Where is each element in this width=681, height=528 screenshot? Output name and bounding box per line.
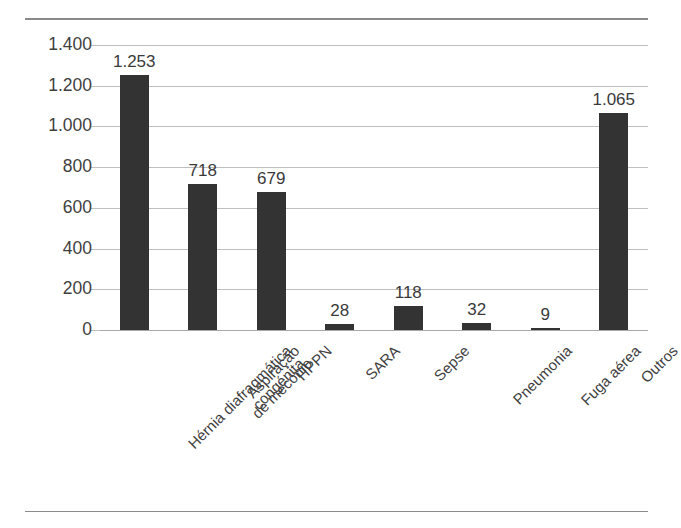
y-axis-tick-label: 800: [2, 158, 92, 176]
x-axis-category-label: Pneumonia: [509, 342, 575, 408]
bar: [531, 328, 560, 330]
bar: [394, 306, 423, 330]
y-axis-tick-label: 0: [2, 321, 92, 339]
bar-value-label: 9: [495, 306, 595, 323]
bar: [599, 113, 628, 330]
y-axis-tick-label: 1.000: [2, 117, 92, 135]
x-axis-category-label: Sepse: [431, 342, 474, 385]
bar: [462, 323, 491, 330]
bar-value-label: 118: [358, 284, 458, 301]
x-axis-category-label: HPPN: [293, 342, 335, 384]
y-axis-tick-label: 200: [2, 280, 92, 298]
bar: [120, 75, 149, 330]
y-axis-tick-label: 1.200: [2, 77, 92, 95]
bar-value-label: 679: [221, 170, 321, 187]
gridline-1.000: [100, 126, 648, 127]
gridline-1.400: [100, 45, 648, 46]
bar: [325, 324, 354, 330]
bar-value-label: 1.253: [84, 53, 184, 70]
bar-value-label: 28: [290, 302, 390, 319]
bar-value-label: 1.065: [564, 91, 664, 108]
bar: [257, 192, 286, 330]
gridline-600: [100, 208, 648, 209]
gridline-400: [100, 249, 648, 250]
y-axis-tick-label: 600: [2, 199, 92, 217]
gridline-0: [100, 330, 648, 331]
y-axis-tick-label: 1.400: [2, 36, 92, 54]
y-axis-tick-label: 400: [2, 240, 92, 258]
x-axis-category-label: Fuga aérea: [578, 342, 645, 409]
gridline-1.200: [100, 86, 648, 87]
x-axis-category-label: Outros: [637, 342, 681, 386]
x-axis-category-label: SARA: [362, 342, 403, 383]
bar: [188, 184, 217, 330]
